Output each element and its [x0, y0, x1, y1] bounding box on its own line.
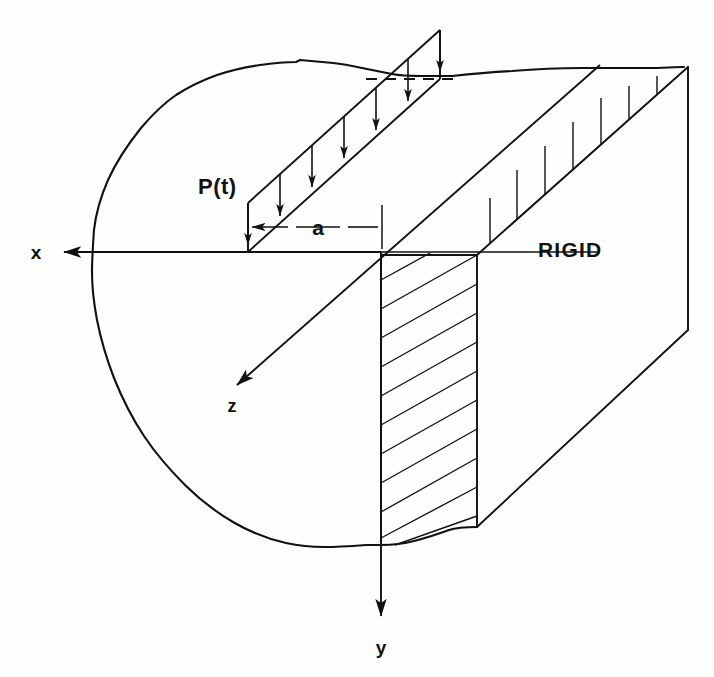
diagram-canvas: x y z P(t) a RIGID — [0, 0, 714, 677]
engineering-diagram: x y z P(t) a RIGID — [0, 0, 714, 677]
block-edges — [477, 67, 688, 527]
axis-label-x: x — [31, 242, 42, 263]
axis-label-y: y — [376, 637, 387, 658]
dimension-label-a: a — [312, 216, 324, 239]
coordinate-axes — [64, 65, 600, 616]
axis-label-z: z — [228, 396, 237, 416]
bottom-right-edge — [477, 330, 688, 527]
z-axis-line — [237, 65, 600, 385]
load-base-edge — [248, 79, 440, 252]
surface-tick-lines — [490, 76, 657, 243]
load-label: P(t) — [198, 174, 237, 199]
soil-outline — [92, 60, 684, 547]
hatched-section — [381, 253, 477, 545]
material-label-rigid: RIGID — [538, 238, 602, 261]
receding-top-edge — [477, 67, 688, 255]
